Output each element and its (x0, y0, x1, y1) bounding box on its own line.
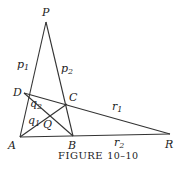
figure-diagram: P D C A B R Q p1 p2 q2 q1 r1 r2 FIGURE10… (0, 0, 184, 170)
line-label-q2: q2 (30, 97, 42, 111)
line-label-q1: q1 (28, 114, 40, 128)
line-label-r1: r1 (112, 100, 122, 114)
figure-caption: FIGURE10–10 (58, 150, 139, 161)
point-label-d: D (12, 86, 22, 99)
point-label-c: C (69, 91, 78, 104)
point-label-q: Q (43, 118, 52, 131)
point-label-p: P (41, 6, 50, 19)
line-label-p2: p2 (61, 62, 73, 76)
line-label-p1: p1 (17, 58, 29, 72)
point-label-r: R (164, 138, 173, 151)
line-r2 (20, 134, 170, 137)
line-label-r2: r2 (114, 136, 124, 150)
point-label-a: A (7, 139, 16, 152)
